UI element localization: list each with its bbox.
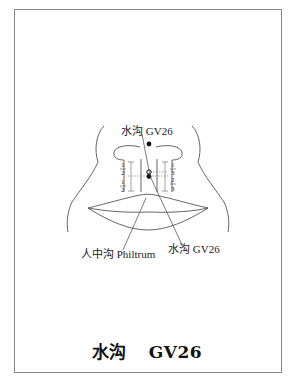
svg-text:1: 1 — [171, 161, 175, 169]
svg-text:2: 2 — [171, 176, 175, 184]
left-nostril-outline — [114, 146, 140, 192]
svg-text:2: 2 — [121, 186, 125, 194]
right-nostril-outline — [156, 146, 182, 192]
svg-text:1: 1 — [121, 161, 125, 169]
right-fractions: 1 3 2 3 — [170, 161, 176, 193]
label-top-gv26: 水沟 GV26 — [121, 125, 173, 137]
svg-text:2: 2 — [121, 169, 125, 177]
caption-code: GV26 — [149, 342, 202, 362]
label-bottom-gv26: 水沟 GV26 — [168, 243, 220, 255]
right-cheek-outline — [192, 126, 229, 232]
figure-caption: 水沟GV26 — [0, 338, 294, 363]
caption-chinese: 水沟 — [92, 338, 127, 363]
left-cheek-outline — [67, 126, 104, 232]
label-philtrum: 人中沟 Philtrum — [81, 248, 156, 260]
leader-philtrum — [123, 198, 146, 250]
left-fractions: 1 2 1 2 — [120, 161, 126, 194]
upper-lip — [88, 194, 208, 212]
leader-top-label — [142, 134, 150, 176]
svg-text:3: 3 — [171, 185, 175, 193]
upper-acupoint-dot — [147, 142, 152, 147]
svg-text:1: 1 — [121, 178, 125, 186]
acupoint-diagram: 1 2 1 2 1 3 2 3 水沟 GV26 人中沟 Philtrum 水沟 … — [0, 0, 294, 383]
